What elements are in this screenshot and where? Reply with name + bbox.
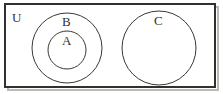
set-c-label: C bbox=[154, 14, 163, 27]
set-a-label: A bbox=[62, 34, 72, 47]
set-b-label: B bbox=[62, 15, 71, 28]
universe-rectangle bbox=[5, 4, 215, 87]
universe-label: U bbox=[12, 11, 22, 24]
venn-diagram-figure: U B A C bbox=[0, 0, 223, 94]
venn-diagram-canvas bbox=[0, 0, 223, 94]
